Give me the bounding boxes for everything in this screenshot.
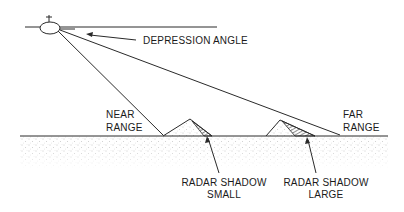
far-range-label-2: RANGE [343,122,380,133]
ground-terrain [20,119,388,170]
shadow-small-label-2: SMALL [207,189,241,200]
depression-angle-label: DEPRESSION ANGLE [143,35,248,46]
aircraft-icon [25,15,60,34]
near-range-label-2: RANGE [106,122,143,133]
shadow-large-label: RADAR SHADOW [283,177,369,188]
depression-angle-arrow [86,32,136,40]
radar-geometry-diagram: DEPRESSION ANGLE NEAR RANGE FAR RANGE RA… [0,0,404,212]
far-range-label: FAR [343,109,363,120]
shadow-large-label-2: LARGE [309,189,344,200]
near-range-label: NEAR [106,109,135,120]
shadow-small-label: RADAR SHADOW [181,177,267,188]
